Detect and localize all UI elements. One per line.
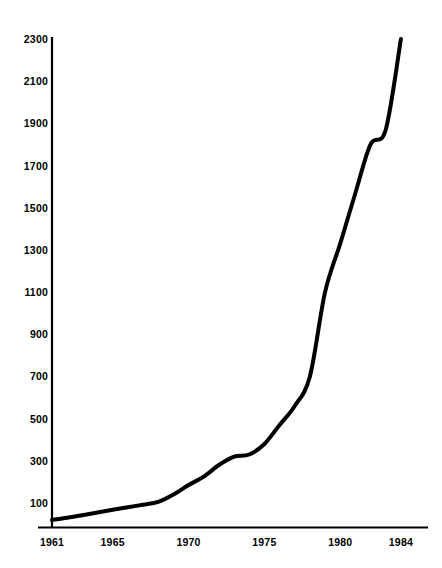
y-tick-label-500: 500	[0, 413, 48, 424]
y-tick-label-300: 300	[0, 455, 48, 466]
y-tick-label-700: 700	[0, 371, 48, 382]
plot-area	[0, 0, 442, 568]
x-tick-label-1965: 1965	[83, 536, 143, 548]
x-tick-label-1970: 1970	[159, 536, 219, 548]
line-chart: 1003005007009001100130015001700190021002…	[0, 0, 442, 568]
x-tick-label-1975: 1975	[234, 536, 294, 548]
y-tick-label-900: 900	[0, 329, 48, 340]
x-tick-label-1984: 1984	[371, 536, 431, 548]
y-tick-label-2100: 2100	[0, 76, 48, 87]
series-1-path	[52, 39, 401, 520]
y-tick-label-1700: 1700	[0, 160, 48, 171]
y-tick-label-1900: 1900	[0, 118, 48, 129]
axis-lines	[38, 37, 428, 528]
y-tick-label-1300: 1300	[0, 244, 48, 255]
y-tick-label-2300: 2300	[0, 34, 48, 45]
data-series-line	[52, 39, 401, 520]
x-tick-label-1980: 1980	[310, 536, 370, 548]
x-tick-label-1961: 1961	[22, 536, 82, 548]
y-tick-label-1100: 1100	[0, 287, 48, 298]
y-tick-label-100: 100	[0, 498, 48, 509]
y-tick-label-1500: 1500	[0, 202, 48, 213]
